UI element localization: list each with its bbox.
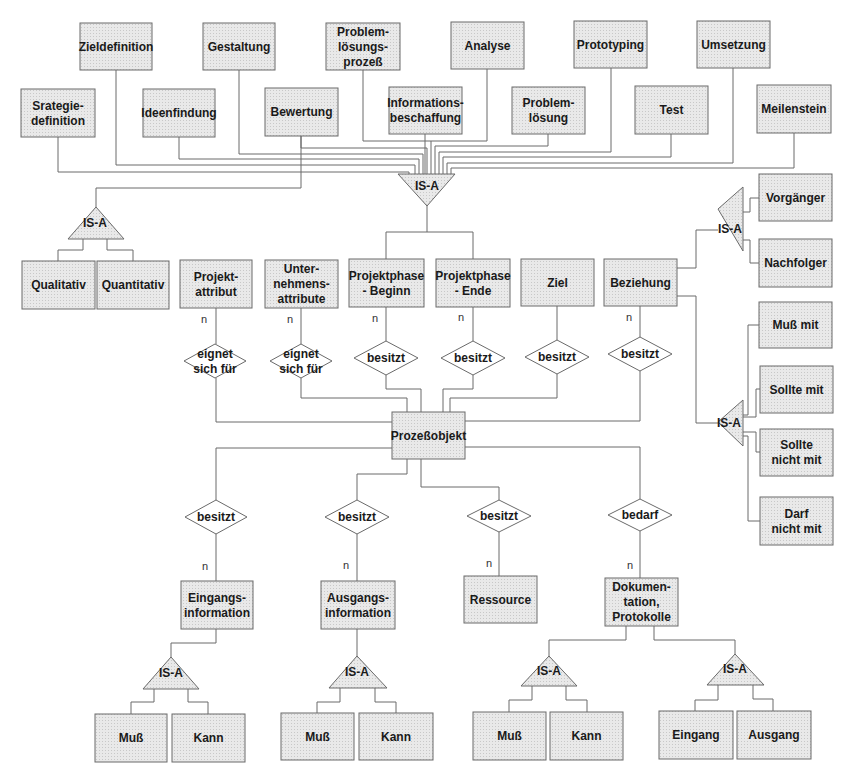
label-text: Gestaltung: [208, 40, 271, 54]
entity-muss_mit[interactable]: Muß mit: [759, 302, 832, 348]
relationship-rel_besitzt_ziel[interactable]: besitzt: [525, 340, 589, 374]
entity-qualitativ[interactable]: Qualitativ: [22, 261, 95, 309]
entity-dokumentation[interactable]: Dokumen-tation,Protokolle: [605, 578, 678, 626]
relationship-rel_besitzt_ende[interactable]: besitzt: [441, 341, 505, 375]
entity-muss_aus[interactable]: Muß: [281, 713, 354, 760]
cardinality-n: n: [343, 559, 349, 571]
entity-sollte_nicht_mit[interactable]: Solltenicht mit: [760, 429, 833, 476]
entity-eingang[interactable]: Eingang: [659, 711, 733, 759]
entity-projektattribut[interactable]: Projekt-attribut: [180, 260, 252, 308]
label-text: Ideenfindung: [141, 106, 216, 120]
entity-informationsbeschaffung[interactable]: Informations-beschaffung: [387, 87, 464, 134]
entity-gestaltung[interactable]: Gestaltung: [203, 23, 275, 70]
label-text: eignet: [197, 347, 232, 361]
entity-test[interactable]: Test: [635, 86, 708, 134]
label-text: nicht mit: [772, 522, 822, 536]
label-text: Ziel: [547, 276, 568, 290]
isa-triangle-isa_muss[interactable]: IS-A: [717, 400, 743, 446]
label-text: Bewertung: [270, 105, 332, 119]
entity-kann_ein[interactable]: Kann: [172, 714, 245, 762]
entity-sollte_mit[interactable]: Sollte mit: [760, 366, 833, 413]
entity-ressource[interactable]: Ressource: [464, 576, 537, 623]
entity-strategiedefinition[interactable]: Srategie-definition: [21, 89, 95, 137]
entity-vorgaenger[interactable]: Vorgänger: [759, 174, 832, 221]
entity-umsetzung[interactable]: Umsetzung: [697, 21, 770, 68]
entity-ausgangsinformation[interactable]: Ausgangs-information: [321, 581, 395, 629]
entity-projektphase_ende[interactable]: Projektphase- Ende: [435, 259, 511, 307]
entity-unternehmensattribute[interactable]: Unter-nehmens-attribute: [265, 260, 338, 308]
entity-beziehung[interactable]: Beziehung: [604, 259, 677, 306]
label-text: Projektphase: [349, 269, 425, 283]
connector-line: [131, 689, 154, 714]
entity-ziel[interactable]: Ziel: [521, 259, 594, 306]
entity-eingangsinformation[interactable]: Eingangs-information: [181, 581, 253, 629]
connector-line: [179, 137, 419, 176]
isa-triangle-isa_bewertung[interactable]: IS-A: [68, 207, 124, 239]
cardinality-n: n: [626, 311, 632, 323]
connector-line: [451, 133, 794, 176]
connector-line: [386, 375, 421, 412]
label-text: Muß: [305, 730, 330, 744]
isa-triangle-isa_top[interactable]: IS-A: [398, 174, 455, 206]
relationship-rel_eignet_2[interactable]: eignetsich für: [270, 344, 332, 378]
isa-triangle-isa_beziehung[interactable]: IS-A: [718, 187, 743, 251]
connector-line: [695, 685, 718, 711]
relationship-rel_besitzt_bez[interactable]: besitzt: [608, 337, 672, 371]
relationship-rel_besitzt_beginn[interactable]: besitzt: [354, 341, 418, 375]
relationship-rel_besitzt_aus[interactable]: besitzt: [325, 500, 389, 534]
connector-line: [549, 626, 626, 656]
label-text: sich für: [279, 362, 323, 376]
label-text: Protokolle: [612, 610, 671, 624]
connector-line: [386, 206, 427, 259]
cardinality-n: n: [202, 560, 208, 572]
entity-darf_nicht_mit[interactable]: Darfnicht mit: [760, 497, 833, 545]
connector-line: [301, 378, 407, 412]
relationship-rel_bedarf[interactable]: bedarf: [608, 499, 672, 531]
relationship-rel_besitzt_ein[interactable]: besitzt: [185, 500, 247, 534]
connector-line: [743, 436, 760, 521]
entity-nachfolger[interactable]: Nachfolger: [759, 239, 832, 287]
label-text: tation,: [624, 595, 660, 609]
label-text: Unter-: [284, 262, 319, 276]
entity-kann_aus[interactable]: Kann: [359, 713, 433, 760]
label-text: besitzt: [197, 510, 235, 524]
connector-line: [677, 230, 718, 268]
label-text: - Ende: [455, 284, 492, 298]
connector-line: [421, 459, 499, 500]
connector-line: [58, 239, 83, 261]
label-text: information: [184, 606, 250, 620]
entity-problemloesungsprozess[interactable]: Problem-lösungs-prozeß: [326, 23, 400, 70]
connector-line: [375, 688, 396, 713]
entity-prozessobjekt[interactable]: Prozeßobjekt: [391, 412, 466, 459]
entity-prototyping[interactable]: Prototyping: [574, 21, 647, 68]
entity-projektphase_beginn[interactable]: Projektphase- Beginn: [349, 259, 425, 307]
entity-zieldefinition[interactable]: Zieldefinition: [79, 23, 154, 70]
label-text: Informations-: [387, 96, 464, 110]
label-text: sich für: [193, 362, 237, 376]
relationship-rel_besitzt_res[interactable]: besitzt: [467, 500, 531, 532]
entity-muss_ein[interactable]: Muß: [95, 714, 167, 762]
connector-line: [465, 447, 640, 499]
entity-quantitativ[interactable]: Quantitativ: [97, 261, 169, 309]
entity-muss_dok[interactable]: Muß: [473, 712, 546, 760]
isa-label: IS-A: [718, 222, 742, 236]
isa-triangle-isa_dok2[interactable]: IS-A: [707, 654, 764, 685]
entity-problemloesung[interactable]: Problem-lösung: [512, 87, 585, 134]
entity-meilenstein[interactable]: Meilenstein: [757, 85, 831, 133]
label-text: eignet: [283, 347, 318, 361]
entity-ideenfindung[interactable]: Ideenfindung: [141, 89, 216, 137]
isa-triangle-isa_ein[interactable]: IS-A: [143, 657, 199, 689]
label-text: Eingangs-: [188, 591, 246, 605]
isa-triangle-isa_dok1[interactable]: IS-A: [521, 656, 577, 686]
entity-ausgang[interactable]: Ausgang: [737, 711, 811, 759]
entity-analyse[interactable]: Analyse: [451, 22, 524, 69]
cardinality-n: n: [486, 557, 492, 569]
relationship-rel_eignet_1[interactable]: eignetsich für: [184, 344, 246, 378]
isa-label: IS-A: [159, 666, 183, 680]
label-text: Ressource: [470, 593, 532, 607]
label-text: prozeß: [343, 55, 382, 69]
entity-kann_dok[interactable]: Kann: [550, 712, 623, 760]
isa-triangle-isa_aus[interactable]: IS-A: [329, 656, 387, 688]
connector-line: [450, 374, 557, 412]
entity-bewertung[interactable]: Bewertung: [265, 88, 338, 136]
